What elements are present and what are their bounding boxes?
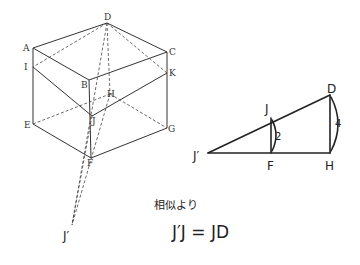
note-similarity: 相似より	[154, 199, 198, 212]
diagram-canvas: D A C I K B H J E G F J′ J D J′ F H 2 4 …	[0, 0, 360, 265]
note-equation: J′J = JD	[171, 222, 229, 242]
label-D: D	[104, 12, 111, 22]
length-JF: 2	[275, 131, 281, 142]
label-A: A	[22, 43, 30, 53]
label-K: K	[169, 68, 176, 78]
label-J: J	[91, 116, 96, 126]
tri-label-H: H	[325, 159, 334, 173]
label-E: E	[24, 120, 31, 130]
tri-label-J: J	[264, 102, 269, 116]
tri-label-D: D	[327, 82, 336, 96]
label-B: B	[81, 80, 88, 90]
label-H: H	[107, 89, 115, 99]
label-I: I	[24, 62, 28, 72]
similar-triangle	[208, 95, 338, 153]
label-F: F	[87, 158, 93, 168]
length-DH: 4	[335, 118, 341, 129]
label-G: G	[168, 124, 175, 134]
tri-label-F: F	[267, 159, 274, 173]
label-J-prime: J′	[62, 229, 70, 243]
tri-label-J-prime: J′	[192, 149, 200, 163]
cube-figure	[33, 23, 167, 225]
label-C: C	[169, 47, 176, 57]
